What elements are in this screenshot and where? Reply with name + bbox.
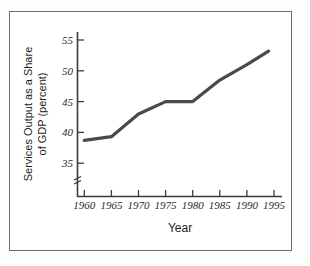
y-tick-label: 45 <box>62 96 74 108</box>
x-axis-title: Year <box>168 221 192 235</box>
data-series-line <box>84 51 268 140</box>
x-tick-label: 1990 <box>236 199 259 211</box>
y-tick-label: 40 <box>62 126 74 138</box>
x-tick-label: 1965 <box>100 199 123 211</box>
x-tick-label: 1980 <box>182 199 205 211</box>
y-tick-label: 55 <box>62 34 74 46</box>
y-axis-ticks <box>78 40 85 163</box>
x-tick-label: 1970 <box>128 199 151 211</box>
x-tick-label: 1985 <box>209 199 232 211</box>
chart-figure: 55 50 45 40 35 1960 1965 1970 1975 1980 … <box>0 0 310 266</box>
x-axis-ticks <box>84 190 274 197</box>
y-tick-label: 50 <box>62 65 74 77</box>
x-tick-label: 1975 <box>155 199 178 211</box>
x-tick-label: 1995 <box>263 199 286 211</box>
y-tick-label: 35 <box>61 157 74 169</box>
chart-plot-area: 55 50 45 40 35 1960 1965 1970 1975 1980 … <box>0 0 310 266</box>
x-tick-label: 1960 <box>73 199 96 211</box>
y-axis-title-line1: Services Output as a Share <box>22 47 34 182</box>
y-axis-title-line2: of GDP (percent) <box>36 73 48 156</box>
